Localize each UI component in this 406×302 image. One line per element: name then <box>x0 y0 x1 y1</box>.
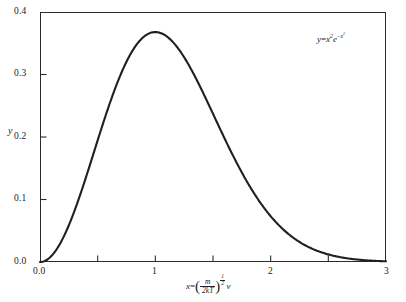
caption-denominator: 2kT <box>200 287 215 295</box>
chart-canvas <box>40 12 386 262</box>
caption-fraction: m2kT <box>200 278 215 294</box>
annotation-exp-x-sup: 2 <box>343 32 345 36</box>
x-tick-label-0: 0.0 <box>33 266 45 276</box>
y-axis-title: y <box>8 125 12 136</box>
x-axis-caption: x=(m2kT)12v <box>186 278 231 295</box>
x-tick-label-2: 2 <box>268 266 273 276</box>
x-axis-ticks <box>98 256 329 263</box>
y-tick-label-0-3: 0.3 <box>14 68 26 78</box>
y-tick-label-0-1: 0.1 <box>14 193 26 203</box>
caption-exponent-half: 12 <box>220 274 225 286</box>
y-tick-label-0-4: 0.4 <box>14 6 26 16</box>
caption-variable-v: v <box>225 281 231 291</box>
x-tick-label-1: 1 <box>152 266 157 276</box>
x-tick-label-3: 3 <box>384 266 389 276</box>
y-tick-label-0-0: 0.0 <box>14 256 26 266</box>
caption-exponent-denominator: 2 <box>220 281 225 287</box>
equation-annotation: y=x2e−x2 <box>317 32 345 44</box>
y-axis-ticks <box>40 75 47 200</box>
annotation-e-exponent: −x2 <box>337 33 345 39</box>
figure-maxwell-boltzmann-plot: 0.4 0.3 0.2 0.1 0.0 y 0.0 1 2 3 y=x2e−x2… <box>0 0 406 302</box>
y-tick-label-0-2: 0.2 <box>14 131 26 141</box>
data-curve-y-equals-x2-exp-minus-x2 <box>40 32 386 262</box>
